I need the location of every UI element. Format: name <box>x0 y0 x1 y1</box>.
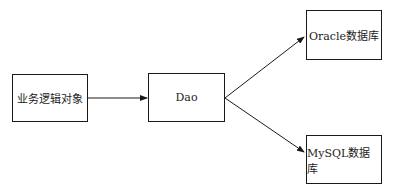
node-oracle-database: Oracle数据库 <box>306 10 382 60</box>
node-mysql-database: MySQL数据库 <box>306 135 382 184</box>
node-label: Oracle数据库 <box>309 27 379 43</box>
node-dao: Dao <box>148 73 225 122</box>
node-label: Dao <box>176 91 198 104</box>
edge-dao-to-oracle <box>225 37 304 98</box>
edge-dao-to-mysql <box>225 98 304 152</box>
node-business-logic-object: 业务逻辑对象 <box>12 74 88 122</box>
node-label: MySQL数据库 <box>307 144 381 176</box>
node-label: 业务逻辑对象 <box>17 90 83 106</box>
